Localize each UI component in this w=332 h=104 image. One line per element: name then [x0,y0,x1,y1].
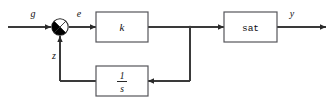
integrator-block: 1 s [96,66,148,96]
arrowhead-into-saturation-block [218,24,224,29]
saturation-block-label: sat [242,23,259,34]
saturation-block: sat [224,12,277,42]
signal-label-g: g [31,8,36,19]
signal-label-y: y [289,8,295,19]
arrowhead-into-gain-block [90,24,96,29]
signal-label-z: z [51,50,56,61]
control-system-block-diagram: k sat 1 s g e z y [0,0,332,104]
gain-block: k [96,12,148,42]
arrowhead-feedback-into-summing-junction [57,36,62,42]
signal-label-e: e [77,8,82,19]
arrowhead-into-summing-junction [45,24,51,29]
arrowhead-output-y [320,24,326,29]
integrator-denominator: s [120,84,124,94]
block-diagram-canvas: k sat 1 s g e z y [0,0,332,104]
integrator-numerator: 1 [120,71,125,81]
summing-junction [52,19,68,35]
arrowhead-into-integrator-block [148,78,154,83]
